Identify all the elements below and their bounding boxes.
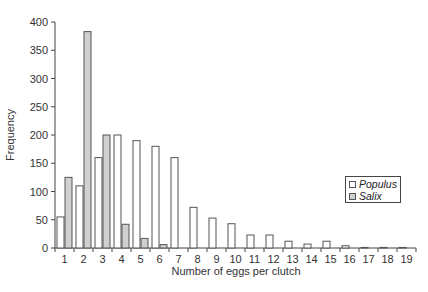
- x-tick-label: 14: [305, 253, 317, 265]
- y-tick-label: 150: [30, 157, 48, 169]
- bar-populus: [399, 247, 406, 248]
- x-tick-label: 18: [381, 253, 393, 265]
- bar-populus: [247, 235, 254, 248]
- x-tick-label: 10: [229, 253, 241, 265]
- bar-salix: [65, 177, 72, 248]
- y-tick-label: 350: [30, 44, 48, 56]
- bar-populus: [342, 246, 349, 248]
- bar-populus: [57, 217, 64, 248]
- y-tick-label: 250: [30, 101, 48, 113]
- y-tick-label: 200: [30, 129, 48, 141]
- y-tick-label: 0: [42, 242, 48, 254]
- x-tick-label: 6: [156, 253, 162, 265]
- bar-populus: [361, 247, 368, 248]
- legend-item-populus: Populus: [349, 178, 397, 190]
- salix-swatch-icon: [349, 193, 356, 200]
- bar-salix: [141, 238, 148, 248]
- y-tick-label: 50: [36, 214, 48, 226]
- x-axis-title: Number of eggs per clutch: [171, 265, 300, 277]
- x-tick-label: 5: [137, 253, 143, 265]
- bar-salix: [122, 224, 129, 248]
- x-tick-label: 1: [61, 253, 67, 265]
- legend-label: Populus: [359, 178, 397, 190]
- bars: [57, 32, 406, 248]
- x-tick-label: 2: [80, 253, 86, 265]
- bar-chart: 050100150200250300350400 123456789101112…: [0, 0, 428, 292]
- y-tick-label: 400: [30, 16, 48, 28]
- x-tick-label: 12: [267, 253, 279, 265]
- x-tick-label: 9: [213, 253, 219, 265]
- bar-populus: [209, 218, 216, 248]
- x-tick-label: 4: [118, 253, 124, 265]
- bar-populus: [190, 207, 197, 248]
- x-tick-label: 19: [400, 253, 412, 265]
- x-tick-label: 15: [324, 253, 336, 265]
- y-tick-label: 300: [30, 73, 48, 85]
- bar-salix: [84, 32, 91, 248]
- x-tick-label: 3: [99, 253, 105, 265]
- bar-populus: [133, 141, 140, 248]
- bar-populus: [76, 186, 83, 248]
- y-tick-label: 100: [30, 186, 48, 198]
- bar-populus: [380, 247, 387, 248]
- bar-populus: [323, 241, 330, 248]
- legend-item-salix: Salix: [349, 190, 397, 202]
- populus-swatch-icon: [349, 181, 356, 188]
- x-tick-label: 13: [286, 253, 298, 265]
- bar-salix: [160, 245, 167, 248]
- legend: Populus Salix: [345, 176, 401, 203]
- bar-populus: [152, 146, 159, 248]
- bar-populus: [171, 158, 178, 248]
- x-tick-label: 8: [194, 253, 200, 265]
- bar-populus: [304, 244, 311, 248]
- x-tick-label: 16: [343, 253, 355, 265]
- bar-populus: [285, 241, 292, 248]
- y-axis: 050100150200250300350400: [30, 16, 55, 254]
- bar-populus: [228, 224, 235, 248]
- y-axis-title: Frequency: [4, 109, 16, 161]
- x-axis: 12345678910111213141516171819: [55, 248, 416, 265]
- x-tick-label: 7: [175, 253, 181, 265]
- x-tick-label: 17: [362, 253, 374, 265]
- bar-populus: [95, 158, 102, 248]
- bar-populus: [266, 235, 273, 248]
- bar-salix: [103, 135, 110, 248]
- x-tick-label: 11: [249, 253, 260, 265]
- legend-label: Salix: [359, 190, 382, 202]
- bar-populus: [114, 135, 121, 248]
